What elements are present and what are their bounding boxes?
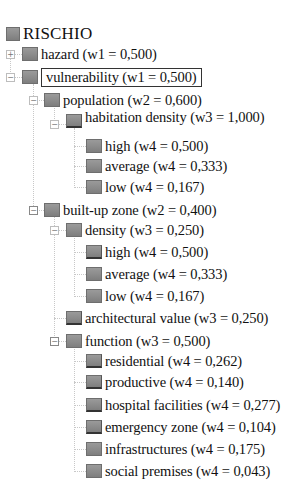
tree-connector — [58, 341, 66, 342]
node-icon — [86, 289, 102, 303]
node-label: low (w4 = 0,167) — [105, 178, 204, 196]
tree-connector — [74, 449, 86, 450]
tree-node-hd-high[interactable]: high (w4 = 0,500) — [86, 136, 208, 156]
node-icon — [6, 27, 20, 41]
tree-node-hazard[interactable]: hazard (w1 = 0,500) — [22, 44, 157, 64]
node-icon — [86, 375, 102, 389]
collapse-toggle-vulnerability[interactable]: − — [6, 73, 15, 82]
node-label: average (w4 = 0,333) — [105, 157, 227, 175]
tree-connector — [14, 54, 22, 55]
tree-root[interactable]: RISCHIO — [6, 24, 92, 44]
node-label: infrastructures (w4 = 0,175) — [105, 440, 265, 458]
node-label: hazard (w1 = 0,500) — [41, 45, 157, 63]
node-icon — [86, 398, 102, 412]
tree-connector — [74, 187, 86, 188]
node-label: emergency zone (w4 = 0,104) — [105, 418, 276, 436]
node-icon — [86, 354, 102, 368]
node-label: high (w4 = 0,500) — [105, 137, 208, 155]
tree-node-d-low[interactable]: low (w4 = 0,167) — [86, 286, 204, 306]
collapse-toggle-density[interactable]: − — [50, 226, 59, 235]
tree-connector — [74, 382, 86, 383]
tree-node-density[interactable]: density (w3 = 0,250) — [66, 220, 204, 240]
expand-toggle-hazard[interactable]: + — [6, 50, 15, 59]
collapse-toggle-population[interactable]: − — [29, 96, 38, 105]
node-label: residential (w4 = 0,262) — [105, 352, 242, 370]
node-label: built-up zone (w2 = 0,400) — [63, 201, 216, 219]
tree-connector — [74, 296, 86, 297]
node-label: low (w4 = 0,167) — [105, 287, 204, 305]
node-label: vulnerability (w1 = 0,500) — [41, 68, 202, 87]
node-icon — [66, 334, 82, 348]
tree-node-f-social[interactable]: social premises (w4 = 0,043) — [86, 461, 270, 481]
collapse-toggle-built-up-zone[interactable]: − — [29, 206, 38, 215]
collapse-toggle-function[interactable]: − — [50, 337, 59, 346]
tree-connector — [58, 230, 66, 231]
node-label: function (w3 = 0,500) — [85, 332, 210, 350]
node-icon — [86, 267, 102, 281]
tree-connector — [74, 252, 86, 253]
tree-connector — [74, 236, 75, 297]
tree-connector — [37, 100, 44, 101]
tree-node-f-infrastructures[interactable]: infrastructures (w4 = 0,175) — [86, 439, 265, 459]
tree-connector — [58, 124, 66, 125]
tree-node-population[interactable]: population (w2 = 0,600) — [44, 90, 202, 110]
tree-connector — [74, 166, 86, 167]
node-label: architectural value (w3 = 0,250) — [85, 309, 268, 327]
tree-node-f-hospital[interactable]: hospital facilities (w4 = 0,277) — [86, 395, 280, 415]
tree-connector — [74, 471, 86, 472]
tree-connector — [74, 361, 86, 362]
node-label: density (w3 = 0,250) — [85, 221, 204, 239]
tree-node-architectural-value[interactable]: architectural value (w3 = 0,250) — [66, 308, 268, 328]
collapse-toggle-habitation-density[interactable]: − — [50, 120, 59, 129]
tree-connector — [74, 128, 75, 188]
node-icon — [86, 245, 102, 259]
tree-node-d-average[interactable]: average (w4 = 0,333) — [86, 264, 227, 284]
node-label: habitation density (w3 = 1,000) — [85, 108, 264, 126]
node-label: average (w4 = 0,333) — [105, 265, 227, 283]
node-label: productive (w4 = 0,140) — [105, 373, 244, 391]
node-icon — [86, 420, 102, 434]
node-label: high (w4 = 0,500) — [105, 243, 208, 261]
tree-connector — [74, 405, 86, 406]
node-label: hospital facilities (w4 = 0,277) — [105, 396, 280, 414]
tree-node-f-productive[interactable]: productive (w4 = 0,140) — [86, 372, 244, 392]
node-icon — [86, 180, 102, 194]
node-icon — [86, 139, 102, 153]
tree-node-f-emergency[interactable]: emergency zone (w4 = 0,104) — [86, 417, 276, 437]
tree-connector — [14, 77, 22, 78]
node-icon — [44, 93, 60, 107]
tree-node-vulnerability[interactable]: vulnerability (w1 = 0,500) — [22, 67, 202, 87]
tree-node-hd-average[interactable]: average (w4 = 0,333) — [86, 156, 227, 176]
node-icon — [66, 311, 82, 325]
tree-connector — [74, 427, 86, 428]
tree-node-f-residential[interactable]: residential (w4 = 0,262) — [86, 351, 242, 371]
node-icon — [66, 114, 82, 128]
tree-node-habitation-density[interactable]: habitation density (w3 = 1,000) — [66, 108, 264, 128]
node-icon — [86, 464, 102, 478]
node-icon — [22, 47, 38, 61]
tree-view: + − − − − − − RISCHIO hazard (w1 = 0,500… — [0, 0, 294, 499]
node-icon — [86, 442, 102, 456]
tree-node-function[interactable]: function (w3 = 0,500) — [66, 331, 210, 351]
tree-connector — [74, 146, 86, 147]
tree-connector — [74, 274, 86, 275]
tree-node-d-high[interactable]: high (w4 = 0,500) — [86, 242, 208, 262]
node-label: social premises (w4 = 0,043) — [105, 462, 270, 480]
node-icon — [22, 70, 38, 84]
tree-connector — [54, 318, 66, 319]
tree-node-hd-low[interactable]: low (w4 = 0,167) — [86, 177, 204, 197]
node-icon — [44, 203, 60, 217]
root-label: RISCHIO — [23, 25, 92, 43]
node-label: population (w2 = 0,600) — [63, 91, 202, 109]
tree-connector — [37, 210, 44, 211]
node-icon — [86, 159, 102, 173]
tree-connector — [74, 347, 75, 472]
node-icon — [66, 223, 82, 237]
tree-node-built-up-zone[interactable]: built-up zone (w2 = 0,400) — [44, 200, 216, 220]
